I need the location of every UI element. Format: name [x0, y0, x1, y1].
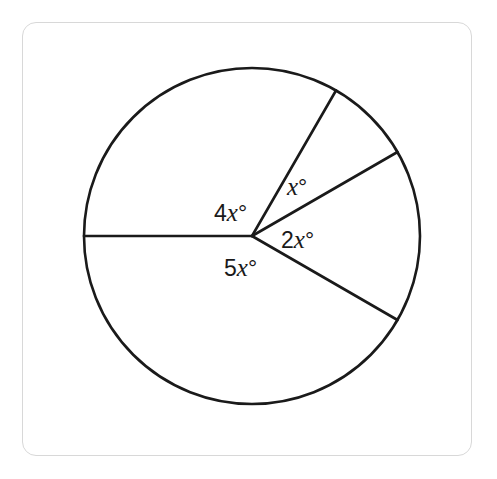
label-5x: 5x°: [224, 254, 257, 281]
radius-line: [252, 91, 336, 237]
label-x: x°: [286, 173, 307, 200]
circle-diagram: 4x° x° 2x° 5x°: [0, 0, 497, 479]
label-4x: 4x°: [214, 199, 247, 226]
label-2x: 2x°: [281, 226, 314, 253]
radius-line: [252, 152, 398, 236]
radius-line: [252, 236, 398, 320]
